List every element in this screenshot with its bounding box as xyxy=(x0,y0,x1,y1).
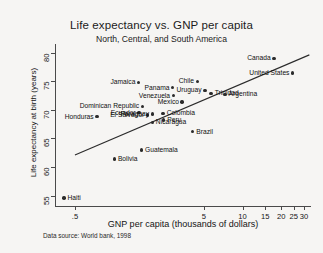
data-point-label: United States xyxy=(249,70,289,77)
data-point xyxy=(203,89,206,92)
data-point-label: Peru xyxy=(167,117,181,124)
data-point xyxy=(196,80,199,83)
data-point-label: Uruguay xyxy=(176,87,201,94)
data-point xyxy=(151,121,154,124)
data-point-label: Argentina xyxy=(229,91,258,98)
data-point xyxy=(223,93,226,96)
data-point-label: Haiti xyxy=(67,195,80,202)
data-point-label: Chile xyxy=(179,78,194,85)
data-point-label: Colombia xyxy=(167,110,195,117)
data-point xyxy=(209,92,212,95)
data-point xyxy=(95,115,98,118)
data-point-label: Canada xyxy=(247,55,270,62)
data-point xyxy=(161,112,164,115)
data-point xyxy=(140,148,143,151)
data-point-label: Jamaica xyxy=(110,79,135,86)
data-point xyxy=(151,112,154,115)
data-point xyxy=(180,100,183,103)
data-point xyxy=(272,57,275,60)
data-point-label: Bolivia xyxy=(118,156,138,163)
data-point-label: Mexico xyxy=(158,98,179,105)
data-point-label: Brazil xyxy=(196,128,213,135)
regression-line xyxy=(0,0,323,253)
data-point-label: Guatemala xyxy=(145,147,178,154)
data-point xyxy=(113,157,116,160)
data-point-label: Panama xyxy=(145,84,170,91)
chart-figure: Life expectancy vs. GNP per capita North… xyxy=(0,0,323,253)
data-point xyxy=(62,196,65,199)
data-point-label: Honduras xyxy=(65,113,94,120)
data-point-label: Paraguay xyxy=(120,110,149,117)
